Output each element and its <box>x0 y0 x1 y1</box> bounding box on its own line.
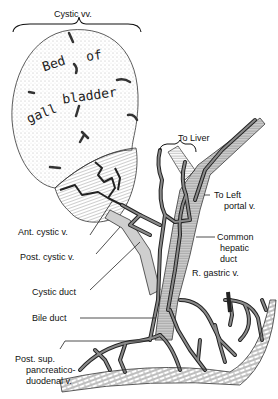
label-pspd-2: pancreatico- <box>26 365 76 375</box>
label-common-hepatic-2: hepatic <box>220 243 249 253</box>
label-common-hepatic-1: Common <box>217 232 254 242</box>
label-pspd-3: duodenal v. <box>26 376 72 386</box>
label-r-gastric-v: R. gastric v. <box>192 268 239 278</box>
label-common-hepatic-3: duct <box>220 254 237 264</box>
label-to-left-portal-1: To Left <box>214 190 241 200</box>
label-pspd-1: Post. sup. <box>15 354 55 364</box>
label-bile-duct: Bile duct <box>32 313 67 323</box>
label-cystic-duct: Cystic duct <box>32 287 76 297</box>
r-gastric-vein <box>228 292 230 312</box>
label-to-left-portal-2: portal v. <box>224 201 255 211</box>
gallbladder-text-of: of <box>85 47 103 64</box>
label-ant-cystic-v: Ant. cystic v. <box>18 227 68 237</box>
label-cystic-vv: Cystic vv. <box>54 9 92 19</box>
label-to-liver: To Liver <box>178 133 210 143</box>
anatomical-figure: Bed of gall bladder Cystic vv. To Liver … <box>0 0 278 399</box>
label-post-cystic-v: Post. cystic v. <box>20 252 74 262</box>
